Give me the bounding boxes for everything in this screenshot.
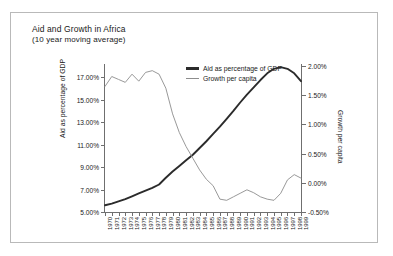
x-axis-tick	[125, 212, 126, 216]
x-axis-tick-label: 1988	[229, 217, 235, 230]
x-axis-tick-label: 1992	[256, 217, 262, 230]
x-axis-tick	[267, 212, 268, 216]
x-axis-tick	[287, 212, 288, 216]
chart-title: Aid and Growth in Africa	[32, 24, 126, 35]
x-axis-tick-label: 1978	[161, 217, 167, 230]
y-axis-left-tick-label: 13.00%	[59, 119, 99, 126]
x-axis-tick-label: 1973	[128, 217, 134, 230]
y-axis-left-tick	[101, 167, 105, 168]
x-axis-tick-label: 1993	[263, 217, 269, 230]
x-axis-tick-label: 1974	[134, 217, 140, 230]
chart-figure: Aid and Growth in Africa (10 year moving…	[0, 0, 393, 256]
x-axis-tick	[139, 212, 140, 216]
y-axis-right-tick	[302, 124, 306, 125]
y-axis-right-tick-label: 2.00%	[308, 63, 327, 70]
chart-subtitle: (10 year moving average)	[32, 35, 126, 46]
y-axis-left-tick	[101, 77, 105, 78]
x-axis-tick	[132, 212, 133, 216]
x-axis-tick	[173, 212, 174, 216]
y-axis-left-tick	[101, 122, 105, 123]
series-canvas	[105, 66, 301, 212]
y-axis-left-tick-label: 11.00%	[59, 141, 99, 148]
y-axis-left-tick-label: 7.00%	[59, 186, 99, 193]
x-axis-tick-label: 1970	[107, 217, 113, 230]
x-axis-tick-label: 1985	[209, 217, 215, 230]
x-axis-tick-label: 1982	[189, 217, 195, 230]
x-axis-tick	[227, 212, 228, 216]
y-axis-right-tick-label: -0.50%	[308, 209, 329, 216]
x-axis-tick-label: 1971	[114, 217, 120, 230]
x-axis-tick	[146, 212, 147, 216]
y-axis-left-tick	[101, 100, 105, 101]
x-axis-tick	[179, 212, 180, 216]
y-axis-right-title: Growth per capita	[337, 110, 344, 164]
x-axis-tick	[254, 212, 255, 216]
x-axis-tick	[301, 212, 302, 216]
x-axis-tick-label: 1991	[249, 217, 255, 230]
x-axis-tick	[186, 212, 187, 216]
y-axis-right-tick	[302, 183, 306, 184]
x-axis-tick	[247, 212, 248, 216]
x-axis-tick-label: 1984	[202, 217, 208, 230]
x-axis-tick-label: 1979	[168, 217, 174, 230]
y-axis-left-tick	[101, 145, 105, 146]
x-axis-tick-label: 1995	[276, 217, 282, 230]
x-axis-tick	[220, 212, 221, 216]
y-axis-right-tick	[302, 212, 306, 213]
x-axis-tick	[233, 212, 234, 216]
y-axis-left-tick-label: 9.00%	[59, 164, 99, 171]
x-axis-tick	[206, 212, 207, 216]
x-axis-tick-label: 1999	[303, 217, 309, 230]
x-axis-line	[104, 212, 302, 213]
x-axis-tick-label: 1983	[195, 217, 201, 230]
x-axis-tick	[274, 212, 275, 216]
x-axis-tick	[260, 212, 261, 216]
x-axis-tick	[281, 212, 282, 216]
title-block: Aid and Growth in Africa (10 year moving…	[32, 24, 126, 46]
x-axis-tick	[240, 212, 241, 216]
series-line-aid	[105, 67, 301, 205]
x-axis-tick	[200, 212, 201, 216]
x-axis-tick-label: 1980	[175, 217, 181, 230]
x-axis-tick-label: 1989	[236, 217, 242, 230]
x-axis-tick	[193, 212, 194, 216]
y-axis-right-tick-label: 0.50%	[308, 150, 327, 157]
y-axis-right-tick-label: 0.00%	[308, 179, 327, 186]
x-axis-tick	[119, 212, 120, 216]
x-axis-tick-label: 1987	[222, 217, 228, 230]
x-axis-tick-label: 1996	[283, 217, 289, 230]
y-axis-left-tick-label: 15.00%	[59, 96, 99, 103]
x-axis-tick-label: 1986	[216, 217, 222, 230]
y-axis-right-tick	[302, 154, 306, 155]
x-axis-tick	[152, 212, 153, 216]
series-line-growth	[105, 71, 301, 201]
y-axis-right-line	[301, 64, 302, 213]
y-axis-right-tick	[302, 66, 306, 67]
y-axis-left-tick-label: 17.00%	[59, 74, 99, 81]
y-axis-right-tick-label: 1.50%	[308, 92, 327, 99]
x-axis-tick-label: 1972	[121, 217, 127, 230]
x-axis-tick-label: 1976	[148, 217, 154, 230]
x-axis-tick-label: 1998	[297, 217, 303, 230]
x-axis-tick	[105, 212, 106, 216]
x-axis-tick-label: 1997	[290, 217, 296, 230]
y-axis-right-tick	[302, 95, 306, 96]
x-axis-tick	[213, 212, 214, 216]
y-axis-right-tick-label: 1.00%	[308, 121, 327, 128]
y-axis-left-tick-label: 5.00%	[59, 209, 99, 216]
x-axis-tick-label: 1994	[270, 217, 276, 230]
x-axis-tick-label: 1990	[243, 217, 249, 230]
y-axis-left-tick	[101, 190, 105, 191]
x-axis-tick-label: 1975	[141, 217, 147, 230]
plot-area	[105, 66, 301, 212]
x-axis-tick	[166, 212, 167, 216]
x-axis-tick	[159, 212, 160, 216]
x-axis-tick-label: 1981	[182, 217, 188, 230]
x-axis-tick-label: 1977	[155, 217, 161, 230]
x-axis-tick	[112, 212, 113, 216]
x-axis-tick	[294, 212, 295, 216]
